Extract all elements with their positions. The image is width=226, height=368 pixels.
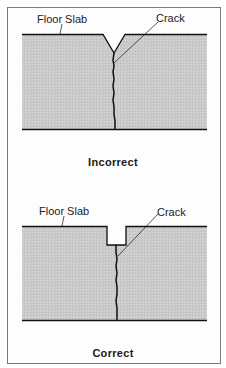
slab-leader (62, 216, 64, 226)
floor-slab-label: Floor Slab (39, 205, 89, 217)
diagram-canvas (0, 0, 226, 368)
crack-label: Crack (157, 206, 186, 218)
caption-correct: Correct (0, 347, 226, 359)
correct-slab (22, 214, 207, 321)
slab-leader (60, 24, 62, 34)
caption-incorrect: Incorrect (0, 156, 226, 168)
incorrect-slab (22, 22, 207, 130)
crack-label: Crack (156, 12, 185, 24)
floor-slab-label: Floor Slab (37, 13, 87, 25)
